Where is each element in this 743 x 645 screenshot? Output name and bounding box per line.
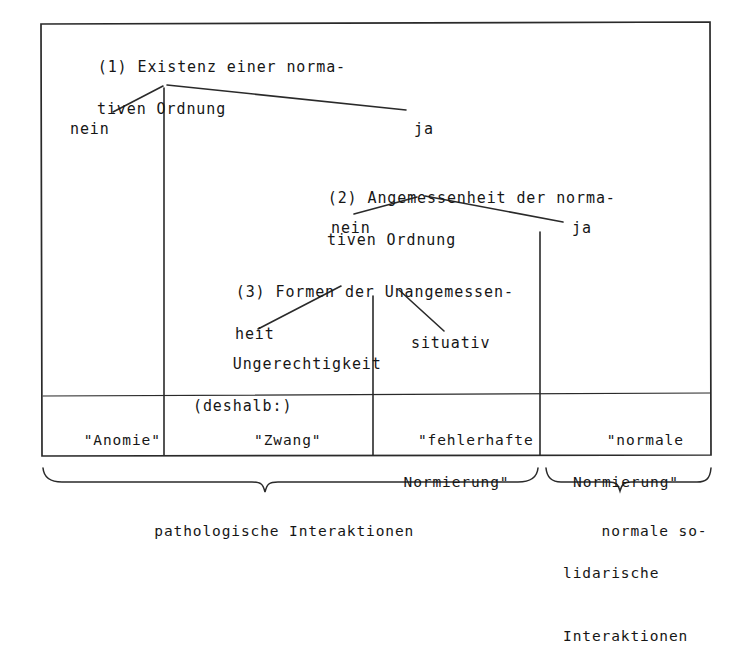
node-1-line1: Existenz einer norma- (137, 58, 346, 76)
brace-caption-normale-line1: normale so- (602, 523, 708, 539)
node-3-number: (3) (236, 283, 266, 301)
node-1-number: (1) (98, 58, 128, 76)
outcome-cell-zwang-line1: "Zwang" (254, 432, 321, 448)
brace-caption-pathologische: pathologische Interaktionen (105, 500, 425, 563)
node-2-line1: Angemessenheit der norma- (367, 189, 615, 207)
brace-caption-normale-line2: lidarische (563, 563, 743, 584)
outcome-cell-normale-line2: Normierung" (542, 472, 710, 493)
branch-label-level1-no: nein (70, 119, 110, 140)
outcome-cell-fehlerhafte-line2: Normierung" (375, 472, 538, 493)
outcome-cell-anomie: "Anomie" (43, 409, 163, 472)
outcome-cell-fehlerhafte-line1: "fehlerhafte (418, 432, 534, 448)
node-1-heading: (1) Existenz einer norma- tiven Ordnung (58, 36, 346, 162)
leaf-ungerechtigkeit-line1: Ungerechtigkeit (233, 355, 382, 373)
node-1-line2: tiven Ordnung (58, 99, 346, 120)
branch-label-level2-no: nein (331, 218, 371, 239)
outcome-cell-anomie-line1: "Anomie" (84, 432, 161, 448)
outcome-cell-zwang: "Zwang" (165, 409, 372, 472)
brace-caption-normale-line3: Interaktionen (563, 626, 743, 645)
node-2-number: (2) (328, 189, 358, 207)
outcome-cell-normale-line1: "normale (607, 432, 684, 448)
leaf-label-situativ: situativ (411, 333, 490, 354)
node-3-line1: Formen der Unangemessen- (275, 283, 513, 301)
brace-caption-normale: normale so- lidarische Interaktionen (563, 500, 743, 645)
branch-label-level2-yes: ja (572, 218, 592, 239)
brace-caption-pathologische-line1: pathologische Interaktionen (154, 523, 414, 539)
branch-label-level1-yes: ja (414, 119, 434, 140)
